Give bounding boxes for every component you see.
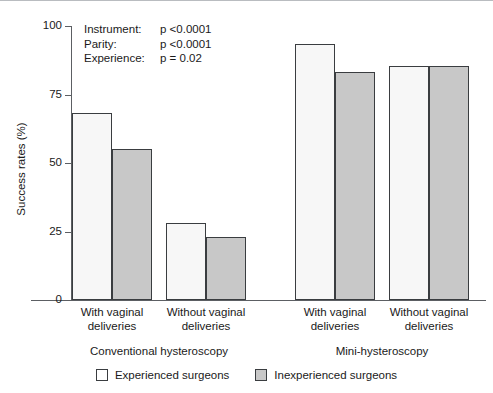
category-label-line2: deliveries xyxy=(405,320,454,332)
legend-item-label: Experienced surgeons xyxy=(115,369,229,381)
category-label-line1: Without vaginal xyxy=(167,306,246,318)
category-label-line2: deliveries xyxy=(182,320,231,332)
legend-swatch-icon xyxy=(255,369,267,381)
category-label-line1: With vaginal xyxy=(81,306,144,318)
bar-mini-without-experienced xyxy=(389,66,429,300)
group-label-mini-hysteroscopy: Mini-hysteroscopy xyxy=(282,345,482,359)
category-label-mini-without: Without vaginal deliveries xyxy=(369,306,489,333)
legend-item-inexperienced: Inexperienced surgeons xyxy=(255,369,397,381)
x-axis-line xyxy=(31,300,486,301)
bar-mini-without-inexperienced xyxy=(429,66,469,300)
category-label-conventional-without: Without vaginal deliveries xyxy=(146,306,266,333)
bar-mini-with-experienced xyxy=(295,44,335,300)
bar-mini-with-inexperienced xyxy=(335,72,375,300)
legend-item-label: Inexperienced surgeons xyxy=(274,369,397,381)
bar-chart-figure: 100 75 50 25 0 Success rates (%) Instrum… xyxy=(0,0,493,393)
bar-conventional-with-inexperienced xyxy=(112,149,152,300)
chart-legend: Experienced surgeons Inexperienced surge… xyxy=(0,369,493,381)
category-label-line1: With vaginal xyxy=(304,306,367,318)
group-label-conventional-hysteroscopy: Conventional hysteroscopy xyxy=(59,345,259,359)
category-label-line2: deliveries xyxy=(311,320,360,332)
category-label-line2: deliveries xyxy=(88,320,137,332)
bar-conventional-with-experienced xyxy=(72,113,112,300)
legend-swatch-icon xyxy=(96,369,108,381)
category-label-line1: Without vaginal xyxy=(390,306,469,318)
legend-item-experienced: Experienced surgeons xyxy=(96,369,229,381)
bar-conventional-without-experienced xyxy=(166,223,206,300)
bars-layer xyxy=(0,25,493,300)
plot-area: 100 75 50 25 0 Success rates (%) Instrum… xyxy=(0,1,493,393)
bar-conventional-without-inexperienced xyxy=(206,237,246,300)
